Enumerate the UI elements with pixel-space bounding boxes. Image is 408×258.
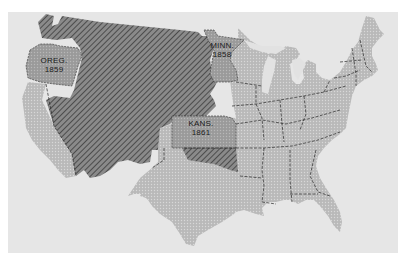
- map-frame: OREG. 1859 MINN. 1858 KANS. 1861: [0, 0, 408, 258]
- oregon-label: OREG. 1859: [34, 56, 74, 74]
- oregon-name: OREG.: [34, 56, 74, 65]
- minnesota-name: MINN.: [204, 41, 240, 50]
- minnesota-year: 1858: [204, 50, 240, 59]
- kansas-name: KANS.: [178, 119, 224, 128]
- kansas-label: KANS. 1861: [178, 119, 224, 137]
- oregon-year: 1859: [34, 65, 74, 74]
- kansas-year: 1861: [178, 128, 224, 137]
- minnesota-label: MINN. 1858: [204, 41, 240, 59]
